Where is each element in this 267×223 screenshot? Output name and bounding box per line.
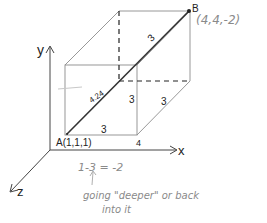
point-a-label: A(1,1,1) <box>56 137 92 148</box>
point-b-coords: (4,4,-2) <box>196 13 240 27</box>
top-left-depth-edge <box>65 11 119 65</box>
label-front-bottom: 3 <box>101 124 107 135</box>
point-a-dot <box>66 133 68 135</box>
space-diagonal <box>67 11 189 134</box>
y-axis-label: y <box>37 42 44 58</box>
pencil-smudge <box>58 87 82 89</box>
point-b-dot <box>187 9 191 13</box>
x-axis-label: x <box>178 143 185 158</box>
cube-diagram: y x z B (4,4,-2) A(1,1,1) 3 3 3 3 4.24 4… <box>0 0 267 223</box>
label-diagonal-length: 4.24 <box>88 88 106 105</box>
z-axis-label: z <box>17 184 24 199</box>
bottom-right-depth-edge <box>137 81 190 135</box>
note-line-1: going "deeper" or back <box>83 190 200 201</box>
label-depth-bottom-right: 3 <box>161 96 167 107</box>
label-front-right: 3 <box>129 94 135 105</box>
label-diagonal-upper: 3 <box>145 32 157 44</box>
note-line-2: into it <box>102 204 132 215</box>
z-calculation-note: 1-3 = -2 <box>78 161 123 174</box>
x-tick-label: 4 <box>136 138 141 148</box>
